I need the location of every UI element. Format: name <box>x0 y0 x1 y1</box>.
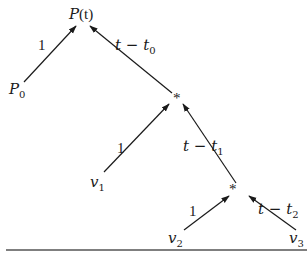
node-v3: v3 <box>289 229 304 249</box>
arrow-line <box>104 104 169 172</box>
node-p0: P0 <box>8 80 25 100</box>
edge-label-sub: 0 <box>149 45 155 56</box>
p0-label-sub: 0 <box>19 89 25 100</box>
svg-text:P(t): P(t) <box>68 5 93 23</box>
edge-label-sub: 1 <box>217 146 223 157</box>
edge-v3-star2: t − t2 <box>249 196 299 230</box>
node-root: P(t) <box>68 5 93 23</box>
edge-label: 1 <box>117 140 125 156</box>
edge-label-text: t − t <box>115 36 150 54</box>
svg-text:v2: v2 <box>168 229 183 249</box>
node-v1: v1 <box>90 173 105 193</box>
edge-star1-root: t − t0 <box>90 26 172 93</box>
root-label-arg: (t) <box>79 6 93 23</box>
edge-label-text: t − t <box>183 137 218 155</box>
svg-text:P0: P0 <box>8 80 25 100</box>
edge-label-text: t − t <box>258 200 293 218</box>
node-star2: * <box>229 181 237 197</box>
v3-label-sub: 3 <box>297 238 303 249</box>
tree-diagram: P(t) P0 1 t − t0 * v1 1 t − t1 <box>0 0 308 254</box>
svg-text:v3: v3 <box>289 229 304 249</box>
edge-label: t − t0 <box>115 36 156 56</box>
edge-v1-star1: 1 <box>104 104 169 172</box>
v2-label-sub: 2 <box>176 238 182 249</box>
node-v2: v2 <box>168 229 183 249</box>
v1-label-sub: 1 <box>98 182 104 193</box>
edge-label: 1 <box>189 203 197 219</box>
edge-label: 1 <box>38 37 46 53</box>
edge-label: t − t1 <box>183 137 224 157</box>
arrow-line <box>24 26 76 82</box>
star2-label: * <box>229 181 237 197</box>
edge-label: t − t2 <box>258 200 299 220</box>
svg-text:v1: v1 <box>90 173 105 193</box>
star1-label: * <box>173 90 181 106</box>
edge-v2-star2: 1 <box>184 196 229 230</box>
edge-label-sub: 2 <box>292 209 298 220</box>
node-star1: * <box>173 90 181 106</box>
edge-p0-root: 1 <box>24 26 76 82</box>
edge-star2-star1: t − t1 <box>183 104 236 183</box>
